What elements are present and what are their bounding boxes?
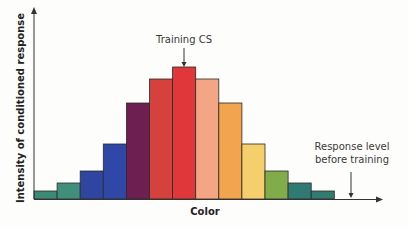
x-axis-label: Color xyxy=(190,206,220,217)
bar-c5 xyxy=(126,103,149,199)
bar-c13 xyxy=(311,191,334,199)
generalization-chart: Color Intensity of conditioned response … xyxy=(0,0,408,227)
response-level-arrow-icon xyxy=(349,193,354,198)
bar-c4 xyxy=(103,144,126,199)
y-axis-arrow-icon xyxy=(31,7,37,14)
bar-c12 xyxy=(288,183,311,199)
bar-c10 xyxy=(242,144,265,199)
y-axis-label: Intensity of conditioned response xyxy=(15,13,26,203)
training-cs-label: Training CS xyxy=(155,34,212,45)
bar-c3 xyxy=(80,171,103,199)
bar-c7 xyxy=(173,67,196,199)
x-axis-arrow-icon xyxy=(376,197,383,203)
bar-c6 xyxy=(150,79,173,199)
bar-c2 xyxy=(57,183,80,199)
bars xyxy=(34,67,334,199)
bar-c11 xyxy=(265,171,288,199)
bar-c1 xyxy=(34,191,57,199)
bar-c8 xyxy=(196,79,219,199)
response-level-label-line1: Response level xyxy=(315,141,390,152)
response-level-label-line2: before training xyxy=(315,154,389,165)
training-cs-arrow-icon xyxy=(182,62,187,67)
bar-c9 xyxy=(219,103,242,199)
